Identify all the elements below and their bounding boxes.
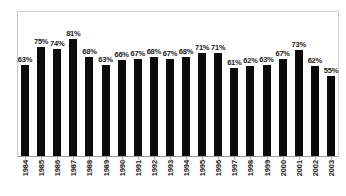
bar[interactable] [21,65,29,156]
x-axis-label-slot: 1996 [210,160,226,194]
bar[interactable] [214,53,222,156]
bar-value-label: 66% [114,51,128,59]
x-axis-label-slot: 1988 [81,160,97,194]
x-axis-label: 1989 [101,160,110,176]
x-axis-label-slot: 1987 [65,160,81,194]
bar-group: 67% [275,11,291,156]
bar[interactable] [102,65,110,156]
bar-value-label: 62% [243,57,257,65]
bar-group: 75% [33,11,49,156]
bar-group: 68% [146,11,162,156]
bar[interactable] [295,50,303,156]
bar-value-label: 71% [195,44,209,52]
bar-value-label: 61% [227,59,241,67]
x-axis-label: 2000 [278,160,287,176]
bar-group: 67% [130,11,146,156]
x-axis-label-slot: 1989 [98,160,114,194]
bar-value-label: 67% [131,50,145,58]
bar-value-label: 67% [163,50,177,58]
x-axis-label-slot: 1997 [226,160,242,194]
bar-value-label: 74% [50,40,64,48]
bar-group: 62% [242,11,258,156]
bar-group: 71% [210,11,226,156]
bar[interactable] [53,49,61,156]
x-axis-label-slot: 2003 [323,160,339,194]
bar-value-label: 68% [82,48,96,56]
x-axis-label-slot: 1995 [194,160,210,194]
bar-group: 63% [17,11,33,156]
x-axis-label: 1994 [182,160,191,176]
bar-group: 62% [307,11,323,156]
bar[interactable] [327,76,335,156]
bar[interactable] [182,57,190,156]
x-axis-label: 1997 [230,160,239,176]
bar-value-label: 62% [308,57,322,65]
bar[interactable] [118,60,126,156]
x-axis-label-slot: 2002 [307,160,323,194]
bar-group: 66% [114,11,130,156]
x-axis-label: 2002 [310,160,319,176]
x-axis-label-slot: 2000 [275,160,291,194]
bar-group: 63% [259,11,275,156]
bar-group: 68% [81,11,97,156]
bar[interactable] [85,57,93,156]
bar-value-label: 63% [259,56,273,64]
x-axis-label-slot: 1994 [178,160,194,194]
bar-group: 67% [162,11,178,156]
bar-group: 81% [65,11,81,156]
x-axis-label: 1996 [214,160,223,176]
bar[interactable] [166,59,174,156]
bars-layer: 63%75%74%81%68%63%66%67%68%67%68%71%71%6… [17,11,339,156]
bar-group: 74% [49,11,65,156]
x-axis-label-slot: 1991 [130,160,146,194]
x-axis-label-slot: 1984 [17,160,33,194]
x-axis-label: 1990 [117,160,126,176]
x-axis-label: 1986 [53,160,62,176]
bar[interactable] [230,68,238,156]
bar-value-label: 55% [324,67,338,75]
x-axis-label: 1992 [149,160,158,176]
bar-value-label: 68% [179,48,193,56]
x-axis-label: 1995 [198,160,207,176]
bar[interactable] [311,66,319,156]
bar[interactable] [150,57,158,156]
x-axis-label: 2003 [326,160,335,176]
x-axis-label-slot: 1985 [33,160,49,194]
x-axis-label: 1998 [246,160,255,176]
bar[interactable] [279,59,287,156]
x-axis-labels: 1984198519861987198819891990199119921993… [17,160,339,194]
bar[interactable] [69,39,77,156]
x-axis-label-slot: 1990 [114,160,130,194]
bar-group: 73% [291,11,307,156]
bar-value-label: 68% [147,48,161,56]
bar-value-label: 63% [18,56,32,64]
bar-group: 55% [323,11,339,156]
bar[interactable] [37,47,45,156]
bar[interactable] [263,65,271,156]
bar-group: 68% [178,11,194,156]
x-axis-label-slot: 1998 [242,160,258,194]
x-axis-label-slot: 1986 [49,160,65,194]
x-axis-label: 1988 [85,160,94,176]
x-axis-label: 1984 [21,160,30,176]
bar[interactable] [198,53,206,156]
bar-value-label: 73% [292,41,306,49]
bar-value-label: 81% [66,30,80,38]
x-axis-label-slot: 1992 [146,160,162,194]
bar-value-label: 75% [34,38,48,46]
x-axis-label: 1999 [262,160,271,176]
bar-group: 63% [98,11,114,156]
x-axis-label-slot: 1993 [162,160,178,194]
x-axis-label: 1991 [133,160,142,176]
x-axis-label: 2001 [294,160,303,176]
bar-value-label: 63% [98,56,112,64]
x-axis-label-slot: 2001 [291,160,307,194]
bar-value-label: 67% [275,50,289,58]
bar-group: 71% [194,11,210,156]
x-axis-label: 1987 [69,160,78,176]
bar[interactable] [246,66,254,156]
bar-chart: 63%75%74%81%68%63%66%67%68%67%68%71%71%6… [0,0,346,196]
x-axis-label-slot: 1999 [259,160,275,194]
bar-group: 61% [226,11,242,156]
bar[interactable] [134,59,142,156]
